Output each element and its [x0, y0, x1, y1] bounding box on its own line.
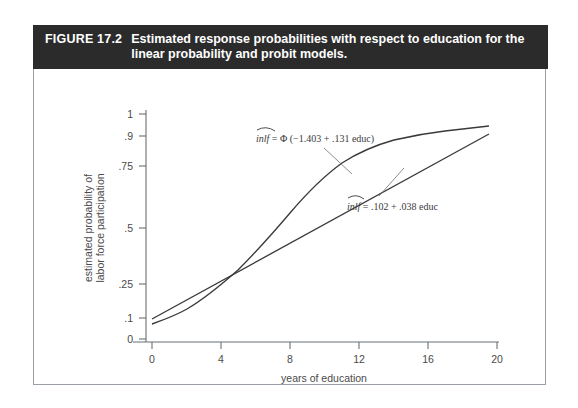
linear-probability-curve: [152, 134, 489, 319]
x-axis-title: years of education: [281, 372, 367, 384]
probit-equation-hat: [257, 128, 275, 131]
linear-equation-hat: [348, 196, 364, 199]
probit-equation-annotation: inlf = Φ (−1.403 + .131 educ): [256, 128, 374, 174]
y-tick-label: .25: [118, 278, 133, 290]
x-tick-label: 12: [353, 353, 365, 365]
probit-equation-text: inlf = Φ (−1.403 + .131 educ): [256, 133, 374, 145]
y-tick-label: .9: [124, 130, 133, 142]
probit-equation-body: = Φ (−1.403 + .131 educ): [272, 133, 374, 145]
x-tick-label: 16: [422, 353, 434, 365]
linear-equation-text: inlf = .102 + .038 educ: [347, 201, 439, 212]
x-axis-ticks: [152, 342, 497, 349]
chart-plot-area: 1 .9 .75 .5 .25 .1 0 0 4 8: [34, 70, 547, 385]
probit-leader-line: [324, 148, 352, 174]
y-tick-label: .75: [118, 160, 133, 172]
y-tick-label: 1: [127, 108, 133, 120]
figure-header-bar: FIGURE 17.2 Estimated response probabili…: [33, 25, 548, 69]
y-axis-tick-labels: 1 .9 .75 .5 .25 .1 0: [118, 108, 133, 345]
linear-equation-body: = .102 + .038 educ: [363, 201, 439, 212]
y-axis-title: estimated probability of labor force par…: [82, 173, 106, 282]
figure-number: FIGURE 17.2: [45, 32, 122, 47]
x-tick-label: 4: [218, 353, 224, 365]
figure-caption: Estimated response probabilities with re…: [131, 32, 538, 61]
probit-curve: [152, 126, 489, 324]
figure-container: FIGURE 17.2 Estimated response probabili…: [33, 25, 546, 385]
y-axis-title-line1: estimated probability of: [82, 174, 94, 282]
y-tick-label: .1: [124, 312, 133, 324]
y-tick-label: .5: [124, 222, 133, 234]
x-axis-tick-labels: 0 4 8 12 16 20: [149, 353, 503, 365]
linear-equation-annotation: inlf = .102 + .038 educ: [347, 168, 439, 212]
x-tick-label: 0: [149, 353, 155, 365]
y-tick-label: 0: [127, 333, 133, 345]
x-tick-label: 8: [287, 353, 293, 365]
y-axis-title-line2: labor force participation: [94, 173, 106, 282]
x-tick-label: 20: [491, 353, 503, 365]
response-probability-chart: 1 .9 .75 .5 .25 .1 0 0 4 8: [34, 70, 547, 385]
y-axis-ticks: [139, 114, 146, 339]
